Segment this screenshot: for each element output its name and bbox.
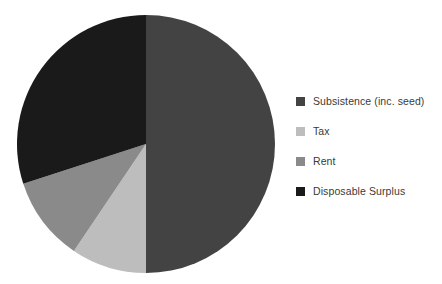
chart-legend: Subsistence (inc. seed) Tax Rent Disposa… (296, 86, 442, 206)
legend-item-disposable-surplus[interactable]: Disposable Surplus (296, 176, 442, 206)
legend-item-label: Tax (313, 126, 330, 137)
legend-item-subsistence[interactable]: Subsistence (inc. seed) (296, 86, 442, 116)
legend-swatch-icon (296, 127, 305, 136)
legend-swatch-icon (296, 157, 305, 166)
pie-slice[interactable] (146, 15, 275, 273)
legend-swatch-icon (296, 97, 305, 106)
legend-item-label: Disposable Surplus (313, 186, 405, 197)
pie-slice-group (17, 15, 275, 273)
legend-item-tax[interactable]: Tax (296, 116, 442, 146)
legend-item-label: Subsistence (inc. seed) (313, 96, 424, 107)
legend-item-label: Rent (313, 156, 336, 167)
legend-swatch-icon (296, 187, 305, 196)
pie-chart-figure: Subsistence (inc. seed) Tax Rent Disposa… (0, 0, 442, 284)
legend-item-rent[interactable]: Rent (296, 146, 442, 176)
